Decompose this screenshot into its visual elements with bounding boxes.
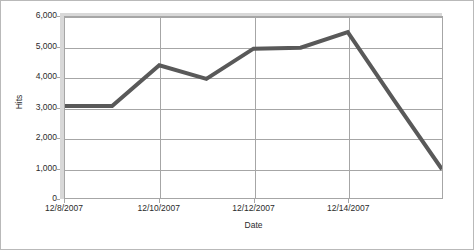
chart-container: 6,0005,0004,0003,0002,0001,0000 12/8/200… [0,0,474,250]
y-axis-tick-label: 5,000 [9,42,57,51]
data-series-line [65,17,442,198]
x-axis-tick-mark [348,199,349,203]
y-axis-tick-label: 0 [9,194,57,203]
y-axis-tick-mark [56,47,60,48]
y-axis-tick-mark [56,199,60,200]
y-axis-tick-mark [56,108,60,109]
y-axis-label: Hits [14,78,24,126]
x-axis-tick-mark [159,199,160,203]
y-axis-tick-mark [56,138,60,139]
y-axis-tick-label: 1,000 [9,164,57,173]
plot-area [64,16,443,199]
x-axis-tick-label: 12/14/2007 [327,203,370,213]
x-axis-tick-mark [64,199,65,203]
y-axis-tick-mark [56,16,60,17]
series-hits-line [65,32,442,169]
x-axis-label: Date [64,220,443,230]
y-axis-tick-label: 2,000 [9,133,57,142]
y-axis-tick-label: 6,000 [9,11,57,20]
x-axis-tick-label: 12/10/2007 [137,203,180,213]
x-axis-tick-mark [254,199,255,203]
x-axis-tick-label: 12/12/2007 [232,203,275,213]
y-axis-tick-mark [56,77,60,78]
x-axis-tick-label: 12/8/2007 [45,203,83,213]
y-axis-tick-mark [56,169,60,170]
